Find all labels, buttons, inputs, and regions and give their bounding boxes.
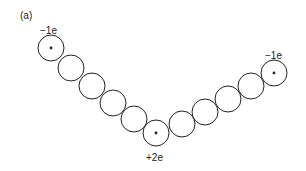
charge-dot-icon <box>155 132 158 135</box>
charge-dot-icon <box>50 47 53 50</box>
bead <box>58 55 84 81</box>
charged-bead <box>38 35 64 61</box>
bead-chain <box>0 0 306 171</box>
charged-bead <box>143 120 169 146</box>
bead <box>79 73 105 99</box>
bead <box>169 111 195 137</box>
bead <box>192 99 218 125</box>
diagram-canvas: (a) −1e +2e −1e <box>0 0 306 171</box>
bead <box>215 86 241 112</box>
charged-bead <box>261 60 287 86</box>
bead <box>121 106 147 132</box>
charge-dot-icon <box>273 72 276 75</box>
bead <box>100 90 126 116</box>
bead <box>238 73 264 99</box>
